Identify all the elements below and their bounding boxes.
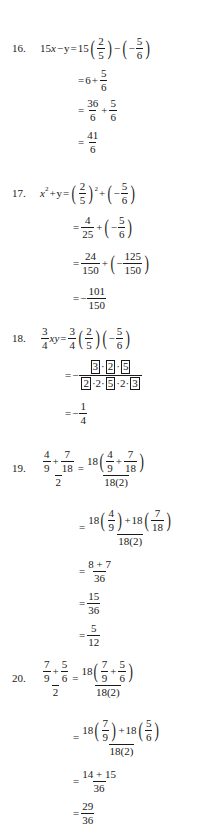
denominator: 6: [121, 193, 129, 206]
numerator: 125: [123, 251, 142, 263]
coefficient: 15: [78, 42, 89, 54]
fraction: 366: [86, 98, 99, 123]
numerator: 5: [109, 98, 117, 110]
denominator: 18(2): [109, 744, 135, 757]
parenthesis-group: −56: [101, 326, 131, 351]
cancelled-factor: 2: [81, 377, 91, 391]
coefficient: 18: [88, 515, 99, 526]
denominator: 4: [68, 338, 76, 351]
operator: +: [124, 515, 130, 526]
fraction: 56: [118, 215, 126, 240]
fraction: 8 + 736: [87, 559, 112, 584]
denominator: 6: [100, 80, 108, 93]
equation-line: = − 101150: [72, 283, 107, 313]
denominator: 12: [87, 635, 100, 648]
numerator: 18 79 + 56: [80, 659, 135, 685]
operator: −: [114, 42, 120, 54]
numerator: 36: [86, 98, 99, 110]
negative-sign: −: [116, 257, 122, 269]
equation-line: = 8 + 736: [78, 556, 113, 586]
parenthesis-group: −125150: [109, 251, 150, 276]
denominator: 9: [43, 461, 51, 474]
parenthesis-group: 56: [137, 718, 161, 743]
fraction: 718: [151, 508, 164, 533]
numerator: 18 49 + 18 718: [87, 508, 173, 534]
numerator: 5: [118, 215, 126, 227]
denominator: 18: [61, 461, 74, 474]
fraction: 425: [81, 215, 94, 240]
equation-line: = 18 49 + 18 718 18(2): [78, 502, 174, 552]
numerator: 7: [101, 659, 109, 671]
denominator: 2: [55, 475, 63, 488]
parenthesis-group: 49: [99, 508, 123, 533]
numerator: 3: [41, 326, 49, 338]
denominator: 36: [87, 603, 100, 616]
coefficient: 15: [40, 42, 51, 54]
dot-operator: ·: [125, 377, 129, 389]
denominator: 18(2): [117, 534, 143, 547]
problem-number: 18.: [12, 332, 26, 344]
fraction: 718: [61, 449, 74, 474]
denominator: 36: [93, 571, 106, 584]
numerator: 8 + 7: [87, 559, 112, 571]
variable-y: y: [64, 42, 70, 54]
fraction: 101150: [87, 286, 106, 311]
equals: =: [73, 807, 79, 819]
fraction: 25: [85, 326, 93, 351]
denominator: 18(2): [103, 475, 129, 488]
denominator: 6: [109, 110, 117, 123]
denominator: 6: [89, 110, 97, 123]
numerator: 24: [84, 251, 97, 263]
equals: =: [73, 292, 79, 304]
numerator: 5: [100, 68, 108, 80]
numerator: 2: [97, 36, 105, 48]
fraction: 25: [97, 36, 105, 61]
negative-sign: −: [111, 221, 117, 233]
denominator: 18(2): [95, 685, 121, 698]
complex-fraction: 49 + 718 2: [41, 449, 76, 488]
equals: =: [60, 332, 66, 344]
fraction: 25: [79, 181, 87, 206]
exponent: 2: [45, 185, 49, 193]
equation-line: = 14 + 1536: [72, 766, 118, 796]
parenthesis-group: 25: [70, 181, 94, 206]
fraction: 24150: [81, 251, 100, 276]
equation-line: x2 + y = 252 + −56: [40, 175, 137, 211]
equals: =: [73, 775, 79, 787]
complex-fraction: 18 49 + 718 18(2): [86, 449, 146, 488]
parenthesis-group: 25: [77, 326, 101, 351]
denominator: 150: [123, 263, 142, 276]
fraction: 1536: [87, 591, 100, 616]
equals: =: [78, 136, 84, 148]
cancellation-fraction: 3·2·5 2·2·5·2·3: [79, 360, 141, 390]
equation-line: = − 14: [64, 398, 88, 428]
denominator: 9: [106, 461, 114, 474]
equation-line: = 18 79 + 18 56 18(2): [72, 712, 163, 762]
denominator: 18: [124, 461, 137, 474]
equals: =: [79, 521, 85, 533]
operator: +: [53, 456, 59, 467]
fraction: 718: [124, 449, 137, 474]
denominator: 6: [61, 671, 69, 684]
numerator: 41: [86, 130, 99, 142]
numerator: 4: [43, 449, 51, 461]
denominator: 36: [81, 813, 94, 826]
fraction: 56: [61, 659, 69, 684]
negative-sign: −: [80, 292, 86, 304]
fraction: 34: [68, 326, 76, 351]
fraction: 14: [79, 401, 87, 426]
cancelled-factor: 2: [106, 360, 116, 374]
fraction: 56: [109, 98, 117, 123]
coefficient: 18: [132, 515, 143, 526]
numerator: 4: [106, 449, 114, 461]
negative-sign: −: [114, 187, 120, 199]
operator: +: [101, 104, 107, 116]
fraction: 56: [136, 36, 144, 61]
problem-number: 19.: [12, 462, 26, 474]
equation-line: = − 3·2·5 2·2·5·2·3: [64, 358, 143, 392]
fraction: 56: [145, 718, 153, 743]
numerator: 2: [85, 326, 93, 338]
complex-fraction: 18 79 + 18 56 18(2): [81, 718, 162, 757]
denominator: 9: [101, 671, 109, 684]
fraction: 56: [116, 326, 124, 351]
